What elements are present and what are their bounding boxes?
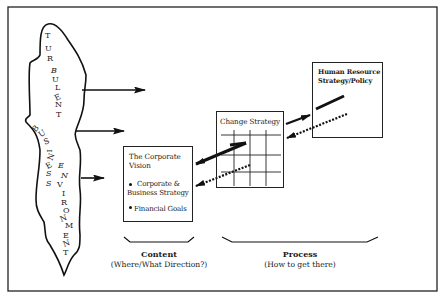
hr-strategy-box: Human Resource Strategy/Policy (312, 62, 383, 138)
content-bracket (124, 237, 194, 242)
turbulent-environment-shape (25, 24, 86, 275)
diagram-canvas: T U R B U L E N T B U S I N E S S E N V … (0, 0, 445, 298)
content-caption-subtitle: (Where/What Direction?) (104, 260, 214, 269)
hr-strategy-title-line1: Human Resource (318, 68, 380, 77)
bullet-icon (129, 206, 132, 209)
bullet-corporate-strategy-line1: Corporate & (137, 180, 180, 189)
process-caption-subtitle: (How to get there) (250, 260, 350, 269)
corporate-vision-title-line1: The Corporate (129, 152, 181, 161)
change-strategy-title: Change Strategy (220, 117, 280, 126)
corporate-vision-box: The Corporate Vision Corporate & Busines… (123, 146, 193, 222)
corporate-vision-title-line2: Vision (129, 161, 151, 170)
bullet-icon (129, 183, 132, 186)
change-to-hr-arrow (286, 115, 310, 124)
bullet-corporate-strategy-line2: Business Strategy (127, 189, 189, 198)
bullet-financial-goals: Financial Goals (134, 205, 187, 214)
process-bracket (222, 237, 378, 242)
change-strategy-box: Change Strategy (216, 111, 284, 188)
process-caption-title: Process (260, 249, 340, 259)
hr-strategy-title-line2: Strategy/Policy (318, 77, 372, 86)
content-caption-title: Content (119, 249, 199, 259)
